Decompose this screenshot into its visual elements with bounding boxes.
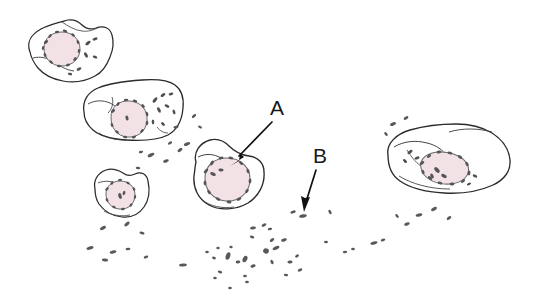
arrow-b-line [306, 170, 316, 202]
label-a: A [270, 96, 284, 119]
arrow-a-line [239, 122, 272, 156]
cell-right [388, 124, 510, 193]
cell-top-left [29, 20, 113, 82]
cell-bacteria-illustration: A B [0, 0, 546, 308]
bacterium-labeled-b [299, 214, 307, 219]
cell-small-left [95, 169, 149, 217]
label-b: B [313, 144, 327, 167]
annotation-b: B [301, 144, 327, 212]
illustration-figure: A B [0, 0, 546, 308]
cell-upper-mid [84, 80, 184, 141]
cell-labeled-a [194, 139, 264, 209]
arrow-b-head [301, 196, 310, 212]
